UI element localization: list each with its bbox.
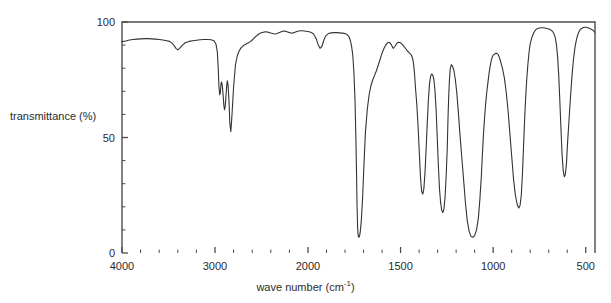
spectrum-plot: 100500 40003000200015001000500 xyxy=(0,0,611,303)
spectrum-trace xyxy=(122,27,595,237)
x-tick-label: 2000 xyxy=(296,260,320,272)
y-axis-ticks xyxy=(122,22,128,253)
x-tick-label: 1000 xyxy=(481,260,505,272)
ir-spectrum-figure: transmittance (%) wave number (cm-1) 100… xyxy=(0,0,611,303)
y-tick-label: 100 xyxy=(97,16,115,28)
x-tick-label: 3000 xyxy=(203,260,227,272)
x-tick-label: 1500 xyxy=(388,260,412,272)
y-tick-label: 50 xyxy=(103,132,115,144)
x-tick-label: 4000 xyxy=(110,260,134,272)
x-axis-tick-labels: 40003000200015001000500 xyxy=(110,260,595,272)
x-axis-ticks xyxy=(122,247,586,253)
y-tick-label: 0 xyxy=(109,247,115,259)
x-tick-label: 500 xyxy=(577,260,595,272)
y-axis-tick-labels: 100500 xyxy=(97,16,115,259)
